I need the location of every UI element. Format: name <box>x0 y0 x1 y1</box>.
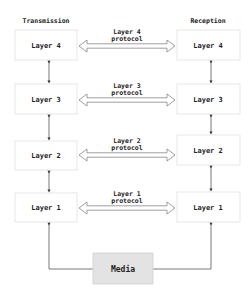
transmission-header: Transmission <box>23 17 70 25</box>
layer-label: Layer 2 <box>193 147 223 155</box>
reception-layer-2: Layer 2 <box>177 135 240 165</box>
reception-layer-4: Layer 4 <box>177 30 240 60</box>
layer-label: Layer 3 <box>31 96 61 104</box>
transmission-stack: Layer 4 Layer 3 Layer 2 Layer 1 <box>15 30 77 222</box>
layer-label: Layer 4 <box>193 42 223 50</box>
protocol-arrows: Layer 4protocolLayer 3protocolLayer 2pro… <box>79 28 175 214</box>
media-box: Media <box>93 253 153 284</box>
connector-l1-media <box>49 224 93 269</box>
transmission-layer-4: Layer 4 <box>15 30 77 60</box>
reception-layer-3: Layer 3 <box>177 84 240 114</box>
layer-label: Layer 1 <box>193 204 223 212</box>
osi-diagram: Transmission Reception Layer 4 Layer 3 L… <box>0 0 251 298</box>
transmission-layer-3: Layer 3 <box>15 84 77 114</box>
layer-label: Layer 3 <box>193 96 223 104</box>
protocol-layer-3: Layer 3protocol <box>79 82 175 106</box>
transmission-layer-1: Layer 1 <box>15 193 77 222</box>
reception-header: Reception <box>190 17 225 25</box>
protocol-layer-2: Layer 2protocol <box>79 137 175 161</box>
layer-label: Layer 4 <box>31 42 61 50</box>
reception-stack: Layer 4 Layer 3 Layer 2 Layer 1 <box>177 30 240 222</box>
transmission-layer-2: Layer 2 <box>15 141 77 170</box>
reception-layer-1: Layer 1 <box>177 192 240 222</box>
protocol-layer-4: Layer 4protocol <box>79 28 175 52</box>
connector-r1-media <box>153 224 211 269</box>
protocol-label: protocol <box>111 35 142 43</box>
protocol-label: protocol <box>111 144 142 152</box>
protocol-label: protocol <box>111 89 142 97</box>
layer-label: Layer 1 <box>31 204 61 212</box>
protocol-layer-1: Layer 1protocol <box>79 190 175 214</box>
media-label: Media <box>111 264 135 274</box>
protocol-label: protocol <box>111 197 142 205</box>
layer-label: Layer 2 <box>31 152 61 160</box>
